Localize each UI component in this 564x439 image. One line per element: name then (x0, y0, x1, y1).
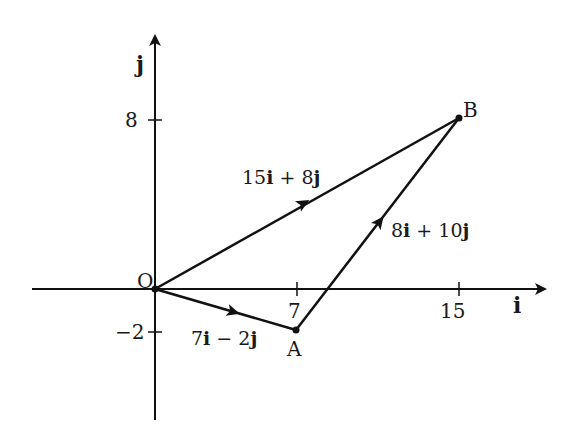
vector-diagram: i j 7 15 8 −2 O A B 15i + 8j 8i + 10j 7i… (0, 0, 564, 439)
point-label-B: B (463, 98, 478, 122)
y-tick-label-8: 8 (125, 108, 138, 132)
vector-OA (155, 289, 296, 330)
point-B (456, 115, 463, 122)
vector-label-OA: 7i − 2j (191, 327, 257, 349)
vector-OB (155, 118, 459, 289)
x-tick-label-15: 15 (440, 299, 465, 323)
arrowhead-OA (226, 304, 242, 319)
y-axis-label: j (134, 51, 144, 77)
point-label-A: A (286, 337, 302, 361)
vector-label-OB: 15i + 8j (242, 166, 320, 188)
x-axis-label: i (513, 292, 521, 318)
y-tick-label-minus2: −2 (115, 320, 144, 344)
vector-label-AB: 8i + 10j (391, 219, 469, 241)
point-A (293, 327, 300, 334)
point-label-O: O (137, 269, 153, 293)
x-tick-label-7: 7 (288, 299, 301, 323)
